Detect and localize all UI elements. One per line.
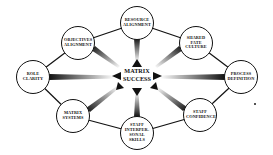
node-label: PROCESS DEFINITION: [227, 72, 255, 82]
node-resource-alignment: RESOURCE ALIGNMENT: [120, 6, 154, 40]
node-label: SHARED FATE CULTURE: [182, 36, 210, 51]
ray-downleft: [86, 86, 119, 112]
node-shared-fate-culture: SHARED FATE CULTURE: [179, 26, 213, 60]
ray-left: [49, 74, 115, 80]
node-label: OBJECTIVES ALIGNMENT: [64, 38, 92, 48]
ray-upright: [155, 46, 183, 68]
ray-right: [160, 74, 225, 80]
arrow-up-icon: [132, 59, 142, 67]
ray-downright: [156, 87, 187, 111]
arrow-down-icon: [132, 88, 142, 96]
node-label: ROLE CLARITY: [19, 72, 47, 82]
ray-upleft: [91, 46, 120, 68]
node-label: MATRIX SYSTEMS: [59, 111, 87, 121]
node-matrix-systems: MATRIX SYSTEMS: [56, 99, 90, 133]
node-objectives-alignment: OBJECTIVES ALIGNMENT: [61, 26, 95, 60]
stray-dot: [254, 103, 256, 105]
center-label-matrix-success: MATRIX SUCCESS: [117, 67, 157, 83]
node-label: RESOURCE ALIGNMENT: [123, 18, 151, 28]
arrow-downright-icon: [150, 82, 158, 90]
node-label: STAFF INTERPER- SONAL SKILLS: [123, 123, 151, 143]
arrow-downleft-icon: [116, 82, 124, 90]
node-label: STAFF CONFIDENCE: [186, 110, 214, 120]
node-staff-interpersonal-skills: STAFF INTERPER- SONAL SKILLS: [120, 116, 154, 150]
node-role-clarity: ROLE CLARITY: [16, 60, 50, 94]
node-staff-confidence: STAFF CONFIDENCE: [183, 98, 217, 132]
ray-up: [134, 38, 140, 62]
node-process-definition: PROCESS DEFINITION: [224, 60, 258, 94]
